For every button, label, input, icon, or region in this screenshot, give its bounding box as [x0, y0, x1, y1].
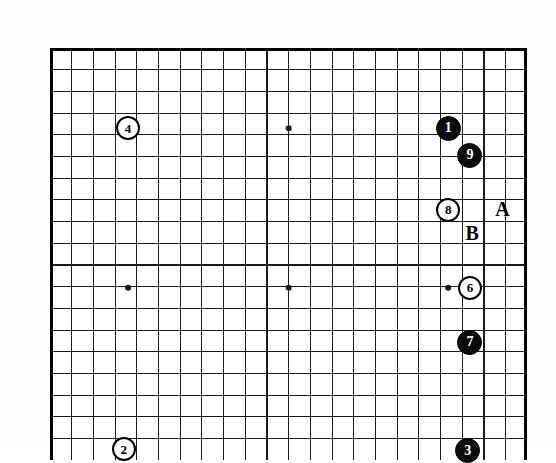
go-stone-black-1[interactable]: 1 [436, 116, 461, 141]
star-point [286, 285, 292, 291]
stone-number-label: 9 [466, 148, 473, 162]
go-stone-black-7[interactable]: 7 [457, 330, 482, 355]
star-point [125, 285, 131, 291]
stone-number-label: 4 [125, 122, 132, 135]
board-grid [50, 48, 527, 460]
stone-number-label: 6 [467, 281, 474, 294]
stone-number-label: 2 [121, 443, 128, 456]
stone-number-label: 1 [445, 121, 452, 135]
board-marker-b[interactable]: B [458, 223, 486, 243]
star-point [445, 285, 451, 291]
go-stone-white-8[interactable]: 8 [436, 198, 460, 222]
star-point [286, 125, 292, 131]
board-marker-a[interactable]: A [488, 199, 516, 219]
stone-number-label: 3 [464, 443, 471, 457]
stone-number-label: 7 [466, 335, 473, 349]
go-board: 19867423 AB [50, 48, 527, 460]
stone-number-label: 8 [445, 203, 452, 216]
go-stone-white-6[interactable]: 6 [458, 276, 482, 300]
